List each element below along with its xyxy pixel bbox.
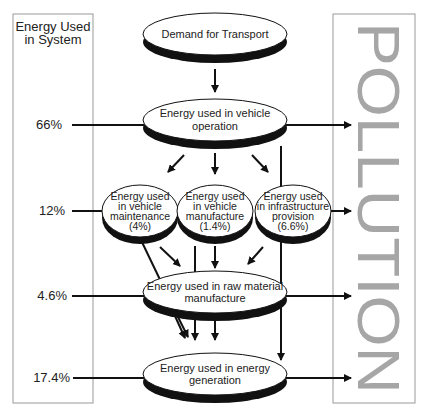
node-demand-for-transport: Demand for Transport — [143, 13, 287, 63]
svg-text:(1.4%): (1.4%) — [200, 220, 231, 232]
node-energy-generation: Energy used in energy generation — [143, 353, 287, 403]
percentage-vehicle: 12% — [39, 203, 65, 218]
svg-text:manufacture: manufacture — [184, 292, 245, 304]
node-vehicle-maintenance: Energy used in vehicle maintenance (4%) — [102, 185, 178, 244]
node-raw-material-manufacture: Energy used in raw material manufacture — [143, 271, 287, 321]
svg-text:Demand for Transport: Demand for Transport — [162, 28, 269, 40]
svg-text:Energy used in vehicle: Energy used in vehicle — [160, 107, 271, 119]
svg-text:Energy used in energy: Energy used in energy — [160, 362, 271, 374]
node-infrastructure-provision: Energy used in infrastructure provision … — [255, 185, 331, 244]
percentage-generation: 17.4% — [33, 370, 70, 385]
percentage-raw-material: 4.6% — [37, 288, 67, 303]
svg-text:generation: generation — [189, 374, 241, 386]
svg-text:(4%): (4%) — [129, 220, 151, 232]
percentage-operation: 66% — [36, 117, 62, 132]
svg-text:(6.6%): (6.6%) — [278, 220, 309, 232]
pollution-label: POLLUTION — [345, 22, 412, 394]
svg-text:Energy used in raw material: Energy used in raw material — [147, 280, 283, 292]
energy-flow-diagram: Energy Used in System POLLUTION 66% 12% … — [0, 0, 424, 416]
node-vehicle-operation: Energy used in vehicle operation — [143, 99, 287, 149]
panel-title-line2: in System — [24, 32, 81, 47]
svg-text:operation: operation — [192, 120, 238, 132]
node-vehicle-manufacture: Energy used in vehicle manufacture (1.4%… — [177, 185, 253, 244]
